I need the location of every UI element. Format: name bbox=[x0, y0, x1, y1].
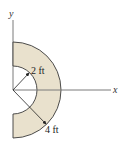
x-axis-label: x bbox=[112, 84, 118, 95]
inner-radius-arrow bbox=[13, 73, 29, 90]
inner-radius-label: 2 ft bbox=[31, 65, 45, 76]
y-axis-label: y bbox=[8, 8, 14, 19]
diagram-canvas: y x 2 ft 4 ft bbox=[0, 0, 130, 145]
outer-radius-label: 4 ft bbox=[45, 124, 59, 135]
